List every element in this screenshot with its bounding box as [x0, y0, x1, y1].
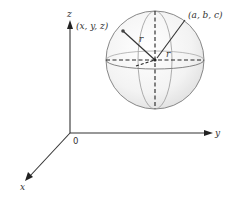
surface-point-dot	[121, 29, 125, 33]
sphere	[106, 11, 204, 109]
sphere-diagram: z y x 0 r r (x, y, z) (a, b, c)	[0, 0, 227, 197]
surface-point-label: (x, y, z)	[76, 21, 109, 31]
y-axis-label: y	[214, 128, 221, 138]
y-axis-arrow-icon	[204, 130, 213, 136]
equatorial-radius-label: r	[166, 49, 171, 59]
x-axis-label: x	[20, 182, 25, 192]
center-dot	[153, 58, 156, 61]
z-axis-arrow-icon	[67, 20, 73, 29]
x-axis	[30, 133, 70, 176]
origin-label: 0	[73, 136, 78, 146]
z-axis-label: z	[66, 9, 72, 19]
center-label: (a, b, c)	[188, 10, 223, 20]
radius-label: r	[139, 34, 144, 44]
